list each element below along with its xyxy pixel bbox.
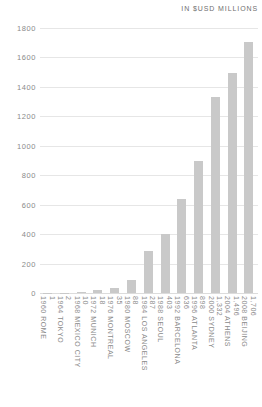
x-category-label: 1984 LOS ANGELES xyxy=(140,296,147,371)
x-label-slot: 1,3322000 SYDNEY xyxy=(208,294,225,407)
bars-group xyxy=(40,28,258,293)
bar-slot xyxy=(74,28,91,293)
y-tick-label-800: 800 xyxy=(0,171,36,180)
x-label-slot: 881980 MOSCOW xyxy=(124,294,141,407)
x-category-label: 1964 TOKYO xyxy=(56,296,63,343)
x-label-slot: 1,7062008 BEIJING xyxy=(241,294,258,407)
bar-value-label: 10 xyxy=(82,296,89,305)
x-label-slot: 351976 MONTREAL xyxy=(107,294,124,407)
x-category-label: 2008 BEIJING xyxy=(241,296,248,347)
bar-slot xyxy=(107,28,124,293)
chart-unit-note: IN $USD MILLIONS xyxy=(181,5,258,12)
x-axis-labels: 11960 ROME21964 TOKYO101968 MEXICO CITY1… xyxy=(40,294,258,407)
x-category-label: 1996 ATLANTA xyxy=(190,296,197,350)
x-category-label: 2004 ATHENS xyxy=(224,296,231,347)
bar-value-label: 636 xyxy=(182,296,189,309)
x-category-label: 1980 MOSCOW xyxy=(123,296,130,353)
x-label-slot: 181972 MUNICH xyxy=(90,294,107,407)
bar[interactable] xyxy=(194,161,203,293)
bar-slot xyxy=(174,28,191,293)
y-tick-label-1000: 1000 xyxy=(0,141,36,150)
bar-slot xyxy=(241,28,258,293)
plot-area xyxy=(40,28,258,293)
bar-slot xyxy=(90,28,107,293)
bar[interactable] xyxy=(177,199,186,293)
x-label-slot: 8981996 ATLANTA xyxy=(191,294,208,407)
bar-slot xyxy=(157,28,174,293)
y-tick-label-1200: 1200 xyxy=(0,112,36,121)
x-category-label: 1960 ROME xyxy=(40,296,47,339)
bar-slot xyxy=(191,28,208,293)
x-category-label: 1968 MEXICO CITY xyxy=(73,296,80,368)
y-tick-label-200: 200 xyxy=(0,259,36,268)
bar[interactable] xyxy=(77,292,86,293)
bar[interactable] xyxy=(93,290,102,293)
chart-container: IN $USD MILLIONS 02004006008001000120014… xyxy=(0,0,262,407)
bar-slot xyxy=(40,28,57,293)
y-tick-label-600: 600 xyxy=(0,200,36,209)
x-label-slot: 21964 TOKYO xyxy=(57,294,74,407)
y-tick-label-0: 0 xyxy=(0,289,36,298)
bar-slot xyxy=(57,28,74,293)
x-category-label: 1992 BARCELONA xyxy=(174,296,181,364)
bar-value-label: 1,706 xyxy=(249,296,256,316)
bar-value-label: 1 xyxy=(48,296,55,300)
bar-slot xyxy=(141,28,158,293)
bar[interactable] xyxy=(144,251,153,293)
x-label-slot: 4031988 SEOUL xyxy=(157,294,174,407)
bar-value-label: 18 xyxy=(98,296,105,305)
x-category-label: 1972 MUNICH xyxy=(90,296,97,348)
bar[interactable] xyxy=(211,97,220,293)
bar-slot xyxy=(124,28,141,293)
x-label-slot: 101968 MEXICO CITY xyxy=(74,294,91,407)
bar-value-label: 88 xyxy=(132,296,139,305)
bar-slot xyxy=(208,28,225,293)
bar[interactable] xyxy=(110,288,119,293)
bar[interactable] xyxy=(228,73,237,293)
y-tick-label-1600: 1600 xyxy=(0,53,36,62)
bar[interactable] xyxy=(161,234,170,293)
x-label-slot: 11960 ROME xyxy=(40,294,57,407)
bar[interactable] xyxy=(127,280,136,293)
bar-value-label: 898 xyxy=(199,296,206,309)
bar-value-label: 1,496 xyxy=(232,296,239,316)
x-category-label: 1988 SEOUL xyxy=(157,296,164,343)
y-tick-label-400: 400 xyxy=(0,230,36,239)
bar-value-label: 403 xyxy=(165,296,172,309)
bar-value-label: 2 xyxy=(65,296,72,300)
y-tick-label-1800: 1800 xyxy=(0,24,36,33)
x-label-slot: 2871984 LOS ANGELES xyxy=(141,294,158,407)
x-category-label: 2000 SYDNEY xyxy=(207,296,214,348)
bar-slot xyxy=(224,28,241,293)
bar-value-label: 1,332 xyxy=(216,296,223,316)
x-category-label: 1976 MONTREAL xyxy=(107,296,114,360)
bar-value-label: 287 xyxy=(149,296,156,309)
x-label-slot: 6361992 BARCELONA xyxy=(174,294,191,407)
y-tick-label-1400: 1400 xyxy=(0,82,36,91)
bar-value-label: 35 xyxy=(115,296,122,305)
bar[interactable] xyxy=(244,42,253,293)
x-label-slot: 1,4962004 ATHENS xyxy=(224,294,241,407)
